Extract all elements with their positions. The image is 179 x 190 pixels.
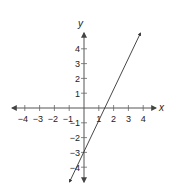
x-tick-label: −3 (33, 114, 43, 124)
x-tick-label: −4 (18, 114, 28, 124)
x-tick-label: −2 (48, 114, 58, 124)
y-tick-label: 1 (75, 89, 80, 99)
y-tick-label: 3 (75, 59, 80, 69)
x-tick-label: 2 (111, 114, 116, 124)
y-tick-label: −1 (70, 118, 80, 128)
y-tick-label: 2 (75, 74, 80, 84)
x-tick-label: 3 (126, 114, 131, 124)
y-axis-label: y (77, 18, 84, 29)
coordinate-plane: −4 −3 −2 −1 1 2 3 4 4 3 2 1 −1 −2 −3 −4 … (0, 0, 179, 190)
x-tick-label: 1 (96, 114, 101, 124)
x-axis-label: x (158, 102, 165, 113)
y-tick-label: −2 (70, 133, 80, 143)
y-tick-label: 4 (75, 44, 80, 54)
x-tick-label: 4 (141, 114, 146, 124)
y-tick-label: −3 (70, 148, 80, 158)
